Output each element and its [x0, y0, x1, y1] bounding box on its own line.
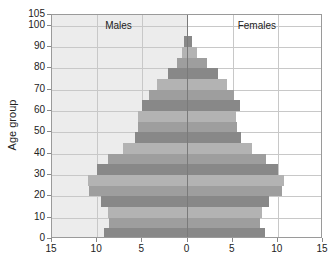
- y-tick-label: 105: [15, 9, 45, 19]
- bar-male-75-79: [168, 68, 188, 79]
- y-tick-label: 20: [15, 190, 45, 200]
- x-tick-mark: [141, 238, 142, 242]
- bar-male-30-34: [97, 164, 187, 175]
- y-tick-label: 70: [15, 84, 45, 94]
- bar-male-35-39: [108, 154, 187, 165]
- bar-male-0-4: [104, 228, 187, 238]
- bar-female-15-19: [188, 196, 269, 207]
- bar-female-80-84: [188, 58, 208, 69]
- bar-male-60-64: [142, 100, 187, 111]
- y-tick-label: 40: [15, 148, 45, 158]
- bar-female-25-29: [188, 175, 285, 186]
- bar-female-85-89: [188, 47, 197, 58]
- bar-female-40-44: [188, 143, 252, 154]
- population-pyramid-chart: Age group 0102030405060708090100105 1510…: [0, 0, 336, 265]
- y-tick-label: 30: [15, 169, 45, 179]
- y-tick-label: 0: [15, 233, 45, 243]
- plot-area: Males Females: [51, 14, 322, 238]
- gridline-vertical: [97, 15, 98, 237]
- bar-female-60-64: [188, 100, 240, 111]
- bar-male-45-49: [135, 132, 187, 143]
- bar-male-50-54: [138, 122, 188, 133]
- x-tick-mark: [232, 238, 233, 242]
- x-tick-label: 5: [220, 244, 244, 254]
- x-tick-mark: [51, 238, 52, 242]
- y-tick-label: 90: [15, 41, 45, 51]
- y-tick-label: 50: [15, 126, 45, 136]
- bar-female-45-49: [188, 132, 241, 143]
- y-tick-label: 10: [15, 212, 45, 222]
- x-tick-label: 15: [310, 244, 334, 254]
- bar-female-65-69: [188, 90, 235, 101]
- x-tick-mark: [322, 238, 323, 242]
- x-tick-label: 15: [39, 244, 63, 254]
- bar-female-0-4: [188, 228, 266, 238]
- zero-line: [187, 15, 188, 237]
- bar-male-15-19: [101, 196, 188, 207]
- gridline-vertical: [278, 15, 279, 237]
- x-tick-mark: [96, 238, 97, 242]
- x-tick-mark: [187, 238, 188, 242]
- x-tick-mark: [277, 238, 278, 242]
- bar-male-25-29: [88, 175, 187, 186]
- y-tick-label: 60: [15, 105, 45, 115]
- bar-female-75-79: [188, 68, 219, 79]
- males-label: Males: [105, 20, 132, 31]
- y-tick-label: 100: [15, 20, 45, 30]
- y-tick-label: 80: [15, 62, 45, 72]
- bar-female-10-14: [188, 207, 263, 218]
- bar-female-20-24: [188, 186, 283, 197]
- bar-female-50-54: [188, 122, 238, 133]
- x-tick-label: 10: [84, 244, 108, 254]
- bar-female-30-34: [188, 164, 278, 175]
- x-tick-label: 10: [265, 244, 289, 254]
- bar-male-65-69: [149, 90, 188, 101]
- bar-female-70-74: [188, 79, 228, 90]
- bar-female-35-39: [188, 154, 267, 165]
- bar-male-10-14: [108, 207, 187, 218]
- bar-female-55-59: [188, 111, 237, 122]
- x-tick-label: 0: [175, 244, 199, 254]
- bar-male-40-44: [123, 143, 187, 154]
- bar-male-80-84: [177, 58, 188, 69]
- bar-male-20-24: [89, 186, 187, 197]
- x-tick-label: 5: [129, 244, 153, 254]
- bar-male-55-59: [138, 111, 188, 122]
- bar-male-70-74: [157, 79, 188, 90]
- bar-female-90-94: [188, 36, 193, 47]
- bar-female-5-9: [188, 218, 260, 229]
- bar-male-5-9: [109, 218, 188, 229]
- females-label: Females: [238, 20, 276, 31]
